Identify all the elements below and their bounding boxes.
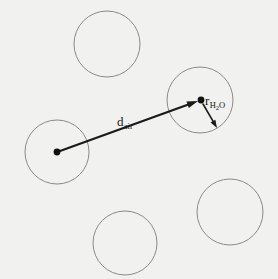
- label-r-h2o-sub-2: 2: [216, 104, 219, 111]
- label-r-h2o: rH2O: [205, 92, 225, 108]
- schematic-svg: [0, 0, 278, 279]
- diagram-background: [0, 0, 278, 279]
- label-d-air-base: d: [117, 114, 124, 129]
- label-r-h2o-sub-h: H: [210, 100, 216, 110]
- dot-upper-right-circle-center: [198, 97, 205, 104]
- label-d-air: dair: [117, 113, 132, 129]
- diagram-canvas: dair rH2O: [0, 0, 278, 279]
- label-r-h2o-subscript: H2O: [210, 100, 226, 110]
- label-d-air-subscript: air: [124, 121, 133, 131]
- dot-left-circle-center: [54, 149, 61, 156]
- label-r-h2o-sub-o: O: [219, 100, 225, 110]
